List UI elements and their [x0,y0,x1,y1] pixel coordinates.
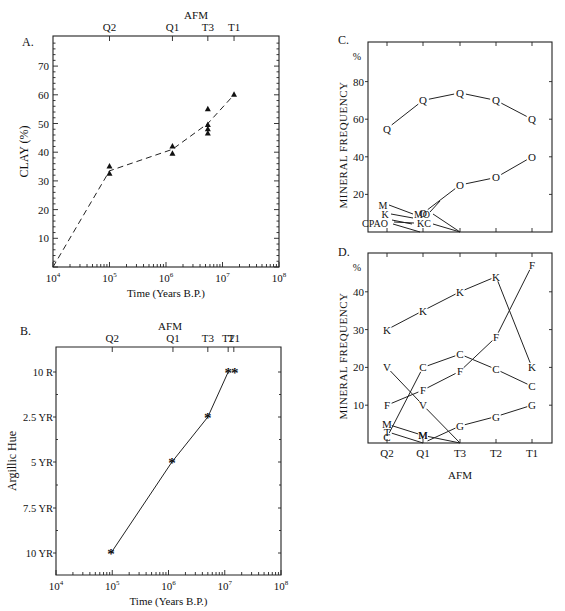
x-axis-title: Time (Years B.P.) [130,595,208,608]
y-axis-title: MINERAL FREQUENCY [337,82,349,209]
marker-CPAO-q2: CPAO [362,218,388,229]
x-tick-label: 108 [272,271,287,284]
series-marker-K: K [456,286,464,298]
series-segment [501,407,527,415]
plot-frame [368,42,552,232]
series-marker-Q: Q [492,94,500,106]
panel-c-mineral-frequency: C.%20406080MINERAL FREQUENCYQQQQQOOOOMKC… [337,33,552,232]
figure: A.AFMQ2Q1T3T1102030405060701041051061071… [0,0,565,611]
y-axis-title: CLAY (%) [17,125,31,177]
y-tick-label: 70 [38,60,50,72]
series-marker-Q: Q [383,123,391,135]
series-marker-Q: Q [419,94,427,106]
series-marker-G: G [528,399,536,411]
minor-mineral-line [433,224,460,232]
asterisk-marker: * [204,410,212,426]
y-tick-label: 40 [38,146,50,158]
series-segment [426,409,460,443]
x-tick-label: T3 [454,447,467,459]
triangle-marker [169,143,175,149]
minor-mineral-line [391,214,413,218]
series-marker-F: F [529,259,535,271]
triangle-marker [169,150,175,156]
series-marker-Q: Q [528,113,536,125]
marker-KC-q1: KC [417,218,431,229]
y-tick-label: 10 YR [26,548,53,559]
panel-a-clay-vs-time: A.AFMQ2Q1T3T1102030405060701041051061071… [17,9,287,300]
y-tick-label: 5 YR [31,457,53,468]
series-segment [466,179,490,184]
y-tick-label: 10 [38,232,50,244]
top-axis-tick-label: Q1 [166,21,179,33]
top-axis-tick-label: T3 [202,21,215,33]
series-segment [427,373,455,387]
y-axis-title: Argillic Hue [5,431,19,491]
series-marker-F: F [457,365,463,377]
series-segment [391,313,418,327]
series-marker-G: G [492,411,500,423]
series-marker-F: F [384,399,390,411]
x-tick-label: T1 [526,447,538,459]
series-segment [390,371,419,402]
panel-label: D. [338,245,350,259]
panel-label: C. [338,33,349,47]
x-tick-label: 106 [159,271,174,284]
x-tick-label: 108 [274,579,289,592]
series-marker-C: C [419,361,426,373]
series-marker-C: C [528,380,535,392]
top-axis-tick-label: T1 [228,21,240,33]
asterisk-marker: * [107,546,115,562]
series-segment [501,371,528,384]
series-marker-Q: Q [456,87,464,99]
series-segment [465,279,492,290]
y-axis-title: MINERAL FREQUENCY [337,293,349,420]
y-tick-label: 50 [38,118,50,130]
series-marker-C: C [456,348,463,360]
triangle-marker [205,106,211,112]
x-tick-label: 105 [102,271,117,284]
y-tick-label: 30 [353,324,365,336]
series-segment [392,104,419,125]
series-marker-F: F [493,331,499,343]
series-marker-C: C [492,363,499,375]
top-axis-tick-label: T3 [202,332,215,344]
minor-mineral-line [389,205,413,214]
x-tick-label: T2 [490,447,502,459]
series-marker-K: K [528,361,536,373]
x-tick-label: Q2 [380,447,393,459]
series-marker-K: K [492,271,500,283]
series-segment [498,281,530,362]
asterisk-marker: * [168,455,176,471]
series-marker-V: V [419,399,427,411]
series-segment [501,160,527,175]
x-tick-label: 104 [46,271,61,284]
x-axis-title: Time (Years B.P.) [127,287,205,300]
series-segment [429,94,454,99]
x-axis-title: AFM [448,469,472,481]
series-segment [464,341,493,368]
series-segment [465,356,492,367]
series-marker-K: K [383,324,391,336]
y-tick-label: 10 [353,399,365,411]
series-marker-G: G [456,420,464,432]
series-segment [428,189,455,210]
y-tick-label: 30 [38,175,50,187]
series-marker-F: F [420,384,426,396]
y-tick-label: 20 [38,204,50,216]
y-tick-label: 20 [353,361,365,373]
x-tick-label: 107 [218,579,233,592]
y-tick-label: 60 [38,89,50,101]
top-axis-tick-label: Q1 [166,332,179,344]
trend-line [53,95,234,267]
series-segment [465,418,491,425]
panel-label: A. [22,35,34,49]
x-tick-label: Q1 [416,447,429,459]
triangle-marker [107,170,113,176]
top-axis-title: AFM [184,9,208,21]
x-tick-label: 105 [105,579,120,592]
series-marker-T: T [384,426,391,438]
panel-b-hue-vs-time: B.AFMQ2Q1T3T2T110 R2.5 YR5 YR7.5 YR10 YR… [5,320,289,608]
x-tick-label: 107 [215,271,230,284]
top-axis-tick-label: T1 [228,332,240,344]
x-tick-label: 106 [161,579,176,592]
